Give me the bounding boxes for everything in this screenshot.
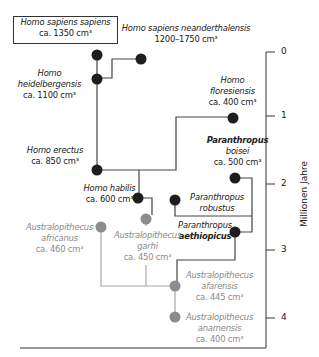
axis-title: Millionen Jahre	[299, 154, 309, 234]
node-neanderthalensis	[136, 54, 147, 65]
tick-label-4: 4	[281, 312, 287, 322]
node-garhi	[141, 214, 152, 225]
neanderthal-branch-line	[97, 59, 141, 78]
tick-label-0: 0	[281, 46, 287, 56]
label-anamensis: Australopithecus anamensis ca. 400 cm³	[182, 312, 257, 345]
node-robustus	[170, 195, 181, 206]
tick-label-1: 1	[281, 110, 287, 120]
label-floresiensis: Homo floresiensis ca. 400 cm³	[195, 75, 270, 108]
hominin-phylogeny-diagram: Homo sapiens sapiens ca. 1350 cm³ Homo s…	[0, 0, 319, 357]
label-robustus: Paranthropus robustus	[182, 192, 252, 214]
tick-label-3: 3	[281, 244, 287, 254]
node-africanus	[96, 222, 107, 233]
node-boisei	[230, 173, 241, 184]
node-sapiens	[92, 50, 103, 61]
tick-label-2: 2	[281, 178, 287, 188]
label-africanus: Australopithecus africanus ca. 460 cm³	[22, 222, 97, 255]
label-neanderthalensis: Homo sapiens neanderthalensis 1200–1750 …	[116, 23, 256, 45]
label-habilis: Homo habilis ca. 600 cm³	[72, 183, 147, 205]
node-erectus	[92, 165, 103, 176]
tree-lines	[0, 0, 319, 357]
label-boisei: Paranthropus boisei ca. 500 cm³	[200, 135, 275, 168]
label-afarensis: Australopithecus afarensis ca. 445 cm³	[182, 270, 257, 303]
node-anamensis	[170, 312, 181, 323]
node-heidelbergensis	[92, 74, 103, 85]
label-garhi: Australopithecus garhi ca. 450 cm³	[110, 230, 185, 263]
label-erectus: Homo erectus ca. 850 cm³	[20, 145, 90, 167]
node-afarensis	[170, 281, 181, 292]
label-heidelbergensis: Homo heidelbergensis ca. 1100 cm³	[12, 68, 87, 101]
node-floresiensis	[228, 113, 239, 124]
label-sapiens: Homo sapiens sapiens ca. 1350 cm³	[13, 17, 118, 39]
